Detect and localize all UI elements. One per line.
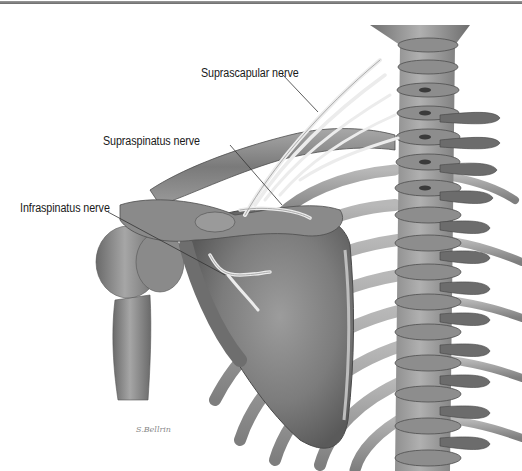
artist-signature: S.Bellrin <box>136 425 171 434</box>
label-infraspinatus-nerve: Infraspinatus nerve <box>20 201 110 215</box>
label-supraspinatus-nerve: Supraspinatus nerve <box>103 134 200 148</box>
scapula <box>186 209 354 448</box>
label-suprascapular-nerve: Suprascapular nerve <box>201 66 299 80</box>
humerus <box>96 226 184 400</box>
